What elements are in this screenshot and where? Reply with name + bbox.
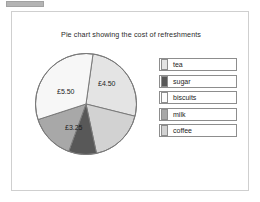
pie-chart: £4.50£3.25£5.50 [32,50,140,158]
chart-panel: Pie chart showing the cost of refreshmen… [11,11,249,191]
legend-label-biscuits: biscuits [173,92,196,103]
worksheet-page: Pie chart showing the cost of refreshmen… [0,0,260,202]
legend-label-sugar: sugar [173,76,191,87]
pie-slice-label-biscuits: £5.50 [57,88,75,95]
legend-swatch-tea [161,59,168,70]
chart-legend: teasugarbiscuitsmilkcoffee [159,58,237,141]
legend-item-biscuits[interactable]: biscuits [159,91,237,104]
legend-item-milk[interactable]: milk [159,108,237,121]
pie-chart-svg: £4.50£3.25£5.50 [32,50,140,158]
legend-label-milk: milk [173,109,185,120]
legend-label-coffee: coffee [173,125,192,136]
legend-label-tea: tea [173,59,183,70]
legend-swatch-coffee [161,125,168,136]
legend-item-sugar[interactable]: sugar [159,75,237,88]
legend-item-coffee[interactable]: coffee [159,124,237,137]
pie-slice-label-milk: £3.25 [65,124,83,131]
chart-title: Pie chart showing the cost of refreshmen… [12,30,250,39]
legend-swatch-milk [161,109,168,120]
pie-slice-group [35,53,136,154]
legend-swatch-sugar [161,76,168,87]
pie-slice-label-tea: £4.50 [98,80,116,87]
legend-item-tea[interactable]: tea [159,58,237,71]
top-left-tab [6,1,44,7]
legend-swatch-biscuits [161,92,168,103]
